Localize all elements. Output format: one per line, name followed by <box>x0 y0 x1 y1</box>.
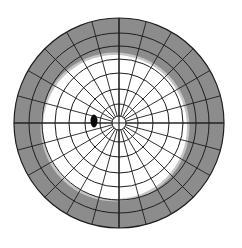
blind-spot-marker <box>91 115 98 128</box>
visual-field-chart <box>0 0 242 248</box>
perimetry-diagram <box>0 0 242 248</box>
